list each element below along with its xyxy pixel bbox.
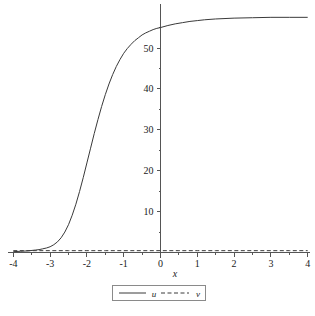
x-tick-label: 4 [305, 258, 310, 269]
y-tick-label: 10 [144, 206, 154, 217]
x-tick-label: 3 [268, 258, 273, 269]
y-axis-ticks [157, 28, 161, 233]
y-tick-label: 40 [144, 83, 154, 94]
x-tick-label: -3 [46, 258, 54, 269]
legend-label-v: v [196, 289, 200, 299]
plot-figure: -4-3-2-101234 1020304050 x u v [0, 0, 315, 316]
y-tick-label: 50 [144, 43, 154, 54]
x-axis-title: x [172, 268, 178, 279]
x-axis-ticks [13, 253, 307, 257]
axes-group [8, 4, 310, 258]
x-tick-label: 0 [158, 258, 163, 269]
y-tick-label: 30 [144, 124, 154, 135]
x-tick-label: -4 [9, 258, 17, 269]
legend-label-u: u [152, 289, 157, 299]
x-tick-label: -2 [83, 258, 91, 269]
plot-canvas: -4-3-2-101234 1020304050 x u v [0, 0, 315, 316]
x-tick-label: 2 [232, 258, 237, 269]
legend: u v [113, 286, 206, 301]
x-tick-label: 1 [195, 258, 200, 269]
y-axis-tick-labels: 1020304050 [144, 43, 154, 218]
x-axis-tick-labels: -4-3-2-101234 [9, 258, 310, 269]
x-tick-label: -1 [120, 258, 128, 269]
y-tick-label: 20 [144, 165, 154, 176]
